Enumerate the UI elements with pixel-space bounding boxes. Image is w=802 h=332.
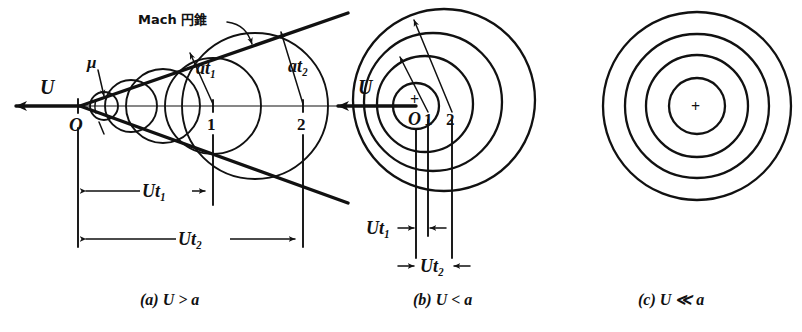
point2-label-b: 2 xyxy=(446,110,455,129)
radius-label-at1: at₁ xyxy=(196,58,216,78)
caption-panel-b: (b) U < a xyxy=(413,291,472,309)
caption-panel-a: (a) U > a xyxy=(140,291,199,309)
dimension-label-Ut1-a: Ut₁ xyxy=(142,181,166,201)
point2-label-a: 2 xyxy=(297,115,306,134)
radius-label-at2: at₂ xyxy=(288,56,308,76)
origin-label-b: O xyxy=(408,109,421,129)
dimension-label-Ut2-b: Ut₂ xyxy=(420,256,444,276)
center-marker-b: + xyxy=(410,91,419,108)
dimension-label-Ut1-b: Ut₁ xyxy=(366,218,390,238)
point1-label-a: 1 xyxy=(207,115,216,134)
velocity-label-a: U xyxy=(40,76,56,98)
mu-label: μ xyxy=(86,53,96,72)
mach-cone-label: Mach 円錐 xyxy=(138,12,207,27)
figure-background xyxy=(0,0,802,332)
mach-cone-figure: U O μ Mach 円錐 at₁ at₂ 1 2 xyxy=(0,0,802,332)
center-marker-c: + xyxy=(691,98,700,115)
origin-label-a: O xyxy=(69,114,83,135)
caption-panel-c: (c) U ≪ a xyxy=(638,291,704,309)
dimension-label-Ut2-a: Ut₂ xyxy=(178,229,202,249)
